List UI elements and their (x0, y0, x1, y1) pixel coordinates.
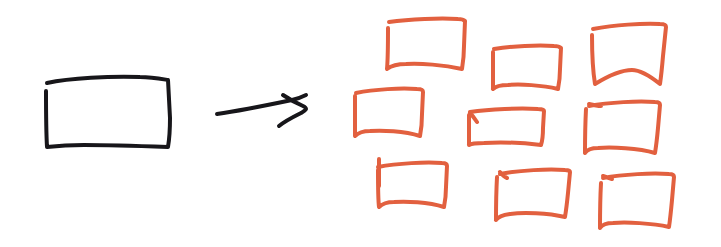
sketch-drawing (0, 0, 721, 247)
canvas-background (0, 0, 721, 247)
sketch-canvas: A hand-drawn sketch: a single black rect… (0, 0, 721, 247)
